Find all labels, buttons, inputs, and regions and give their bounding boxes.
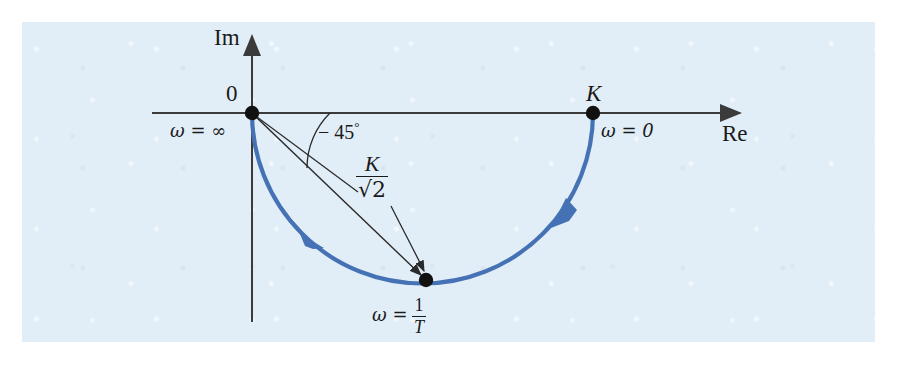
diagram-canvas [0, 0, 907, 365]
angle-value-text: − 45 [318, 121, 354, 143]
omega-zero-text: ω = 0 [601, 120, 654, 141]
imaginary-axis-label: Im [214, 26, 240, 49]
omega-infinity-label: ω = ∞ [170, 122, 226, 140]
nyquist-semicircle-curve [252, 113, 593, 284]
corner-frequency-lhs: ω = [372, 304, 407, 325]
point-omega-one-over-T [419, 273, 433, 287]
corner-frequency-fraction: 1 T [412, 296, 426, 337]
origin-label: 0 [226, 82, 238, 105]
point-omega-zero-K [586, 106, 600, 120]
point-omega-infinity [245, 106, 259, 120]
magnitude-numerator: K [356, 152, 388, 177]
gain-point-label: K [586, 82, 601, 105]
real-axis-label: Re [722, 122, 748, 145]
omega-zero-label: ω = 0 [601, 122, 654, 140]
magnitude-fraction: K √2 [356, 152, 388, 201]
omega-infinity-text: ω = ∞ [170, 120, 226, 141]
direction-arrow-right-icon [551, 198, 577, 228]
minus-45-degree-label: − 45° [318, 120, 359, 142]
corner-frequency-numerator: 1 [412, 296, 426, 317]
direction-arrow-left-icon [300, 234, 324, 249]
degree-symbol: ° [354, 119, 359, 134]
nyquist-figure: Im Re 0 K ω = ∞ ω = 0 − 45° K √2 ω = 1 T [0, 0, 907, 365]
corner-frequency-denominator: T [412, 317, 426, 337]
magnitude-denominator: √2 [356, 177, 388, 201]
magnitude-label: K √2 [356, 152, 388, 201]
corner-frequency-label: ω = 1 T [372, 296, 426, 337]
